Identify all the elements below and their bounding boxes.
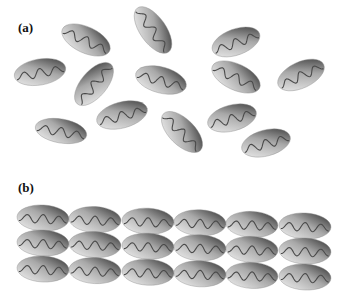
ellipsoid-molecule bbox=[94, 96, 151, 135]
ellipsoid-molecule bbox=[121, 258, 174, 287]
ellipsoid-molecule bbox=[238, 124, 293, 162]
ellipsoid-molecule bbox=[133, 61, 190, 100]
ellipsoid-molecule bbox=[208, 21, 264, 63]
ellipsoid-molecule bbox=[67, 56, 120, 113]
ellipsoid-molecule bbox=[68, 205, 121, 234]
ellipsoid-molecule bbox=[225, 210, 278, 239]
ellipsoid-molecule bbox=[173, 233, 226, 262]
panel-b-ordered bbox=[16, 204, 331, 292]
ellipsoid-molecule bbox=[207, 54, 265, 100]
ellipsoid-molecule bbox=[278, 263, 331, 292]
ellipsoid-molecule bbox=[33, 115, 88, 148]
ellipsoid-molecule bbox=[57, 17, 115, 63]
ellipsoid-molecule bbox=[173, 208, 226, 237]
ellipsoid-molecule bbox=[173, 259, 226, 288]
ellipsoid-molecule bbox=[16, 229, 69, 258]
ellipsoid-molecule bbox=[225, 235, 278, 264]
ellipsoid-molecule bbox=[121, 207, 174, 236]
ellipsoid-molecule bbox=[68, 230, 121, 259]
ellipsoid-molecule bbox=[68, 256, 121, 285]
ellipsoid-molecule bbox=[12, 55, 68, 90]
ellipsoid-molecule bbox=[121, 232, 174, 261]
ellipsoid-molecule bbox=[278, 212, 331, 241]
ellipsoid-molecule bbox=[16, 255, 69, 284]
ellipsoid-molecule bbox=[154, 104, 209, 159]
panel-a-disordered bbox=[12, 0, 329, 162]
ellipsoid-molecule bbox=[204, 99, 259, 137]
ellipsoid-molecule bbox=[16, 204, 69, 233]
ellipsoid-molecule bbox=[278, 237, 331, 266]
ellipsoid-molecule bbox=[127, 0, 179, 59]
ellipsoid-molecule bbox=[225, 261, 278, 290]
molecule-diagram bbox=[0, 0, 349, 302]
ellipsoid-molecule bbox=[273, 53, 329, 98]
